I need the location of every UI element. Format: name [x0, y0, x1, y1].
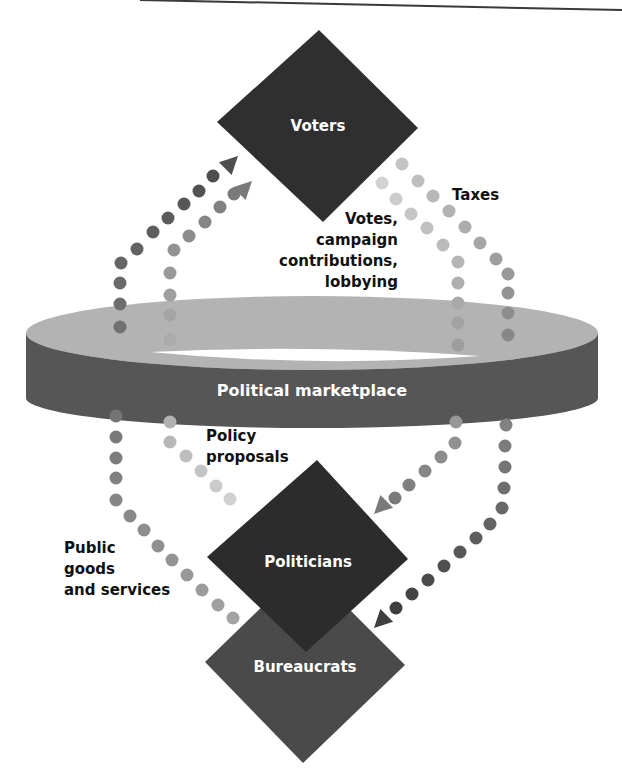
flow-dot [210, 480, 223, 493]
flow-dot [405, 208, 418, 221]
flow-dot [396, 158, 409, 171]
flow-dot [443, 205, 456, 218]
flow-dot [421, 222, 434, 235]
flow-dot [452, 317, 465, 330]
public-goods-label-line-2: goods [64, 560, 115, 578]
arrowhead-icon [219, 150, 244, 175]
flow-dot [376, 177, 389, 190]
flow-dot [212, 599, 225, 612]
flow-dot [199, 216, 212, 229]
marketplace-label: Political marketplace [217, 381, 407, 400]
flow-dot [438, 560, 451, 573]
flow-dot [419, 465, 432, 478]
flow-dot [114, 277, 127, 290]
flow-dot [147, 226, 160, 239]
flow-dot [131, 243, 144, 256]
flow-dot [474, 237, 487, 250]
flow-dot [422, 574, 435, 587]
public-goods-label-line-1: Public [64, 539, 116, 557]
taxes-label-group: Taxes [452, 186, 499, 204]
flow-dot [110, 472, 123, 485]
flow-dot [164, 416, 177, 429]
flow-dot [196, 584, 209, 597]
flow-dot [412, 175, 425, 188]
flow-dot [183, 230, 196, 243]
flow-dot [502, 329, 515, 342]
votes-label-line-1: Votes, [345, 210, 398, 228]
flow-dot [449, 437, 462, 450]
votes-label-line-4: lobbying [325, 273, 398, 291]
flow-dot [470, 532, 483, 545]
political-marketplace-diagram: Political marketplace Bureaucrats Politi… [0, 0, 622, 777]
flow-dot [164, 289, 177, 302]
flow-dot [459, 221, 472, 234]
flow-dot [502, 307, 515, 320]
policy-label-line-1: Policy [206, 427, 256, 445]
flow-dot [502, 287, 515, 300]
flow-dot [390, 193, 403, 206]
flow-dot [110, 494, 123, 507]
flow-dot [115, 257, 128, 270]
flow-dot [454, 546, 467, 559]
flow-dot [193, 185, 206, 198]
public-goods-flow [219, 150, 244, 175]
flow-dot [484, 518, 497, 531]
flow-dot [114, 321, 127, 334]
flow-dot [435, 451, 448, 464]
flow-dot [500, 419, 513, 432]
voters-label: Voters [291, 117, 346, 135]
flow-dot [452, 297, 465, 310]
flow-dot [227, 612, 240, 625]
flow-dot [124, 510, 137, 523]
public-goods-label-line-3: and services [64, 581, 170, 599]
flow-dot [164, 436, 177, 449]
flow-dot [162, 212, 175, 225]
flow-dot [180, 450, 193, 463]
flow-dot [452, 277, 465, 290]
taxes-label: Taxes [452, 186, 499, 204]
flow-dot [152, 540, 165, 553]
policy-label-line-2: proposals [206, 448, 289, 466]
flow-dot [214, 201, 227, 214]
flow-dot [168, 244, 181, 257]
flow-dot [178, 198, 191, 211]
flow-dot [195, 465, 208, 478]
flow-dot [452, 339, 465, 352]
votes-label-line-2: campaign [316, 231, 398, 249]
flow-dot [452, 256, 465, 269]
flow-dot [390, 602, 403, 615]
flow-dot [490, 253, 503, 266]
flow-dot [207, 170, 220, 183]
politicians-label: Politicians [264, 553, 352, 571]
top-rule [140, 0, 622, 10]
flow-dot [164, 334, 177, 347]
flow-dot [166, 554, 179, 567]
flow-dot [406, 588, 419, 601]
flow-dot [110, 452, 123, 465]
flow-dot [138, 524, 151, 537]
flow-dot [496, 502, 509, 515]
flow-dot [389, 492, 402, 505]
flow-dot [181, 569, 194, 582]
policy-label-group: Policy proposals [206, 427, 289, 466]
bureaucrats-label: Bureaucrats [254, 658, 357, 676]
flow-dot [427, 190, 440, 203]
flow-dot [110, 410, 123, 423]
flow-dot [502, 268, 515, 281]
flow-dot [114, 298, 127, 311]
taxes-flow [368, 609, 393, 634]
flow-dot [164, 309, 177, 322]
flow-dot [499, 461, 512, 474]
flow-dot [499, 440, 512, 453]
flow-dot [437, 239, 450, 252]
votes-label-group: Votes, campaign contributions, lobbying [279, 210, 398, 291]
flow-dot [224, 493, 237, 506]
flow-dot [110, 431, 123, 444]
votes-label-line-3: contributions, [279, 252, 398, 270]
arrowhead-icon [368, 609, 393, 634]
flow-dot [164, 267, 177, 280]
flow-dot [450, 416, 463, 429]
flow-dot [403, 479, 416, 492]
flow-dot [498, 482, 511, 495]
